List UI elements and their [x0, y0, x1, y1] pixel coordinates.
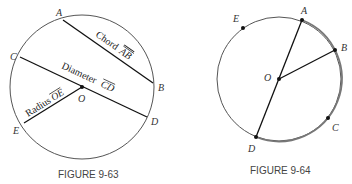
chord-word: Chord: [94, 29, 121, 52]
label-o: O: [264, 72, 271, 83]
diagram-canvas: A B C D E O Chord AB Diameter CD Radius …: [0, 0, 352, 184]
caption-9-63: FIGURE 9-63: [58, 169, 119, 180]
radius-ob: [279, 50, 335, 79]
label-b: B: [158, 82, 164, 93]
point-a: [300, 18, 304, 22]
diameter-word: Diameter: [60, 60, 99, 86]
point-c: [326, 116, 330, 120]
label-c: C: [10, 51, 17, 62]
point-e: [241, 26, 245, 30]
caption-9-64: FIGURE 9-64: [250, 165, 311, 176]
label-a: A: [300, 5, 308, 16]
radius-name: OE: [49, 86, 66, 102]
label-c: C: [332, 122, 339, 133]
point-d: [254, 135, 258, 139]
label-e: E: [232, 13, 239, 24]
center-point-o: [80, 85, 84, 89]
figure-9-64: A B C D E O FIGURE 9-64: [217, 5, 347, 176]
point-b: [333, 48, 337, 52]
radius-label: Radius OE: [23, 86, 66, 118]
label-d: D: [150, 116, 159, 127]
label-o: O: [78, 93, 85, 104]
label-d: D: [247, 143, 256, 154]
label-e: E: [12, 125, 19, 136]
label-b: B: [341, 42, 347, 53]
center-point-o: [277, 77, 281, 81]
diameter-name: CD: [99, 78, 117, 94]
label-a: A: [55, 7, 63, 18]
figure-9-63: A B C D E O Chord AB Diameter CD Radius …: [10, 7, 164, 180]
